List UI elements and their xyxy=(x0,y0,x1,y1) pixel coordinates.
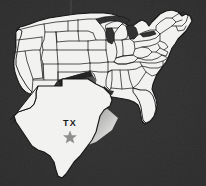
state-abbrev-label: TX xyxy=(63,118,77,128)
us-map-figure: TX xyxy=(0,0,206,186)
us-map-svg: TX xyxy=(0,0,206,186)
